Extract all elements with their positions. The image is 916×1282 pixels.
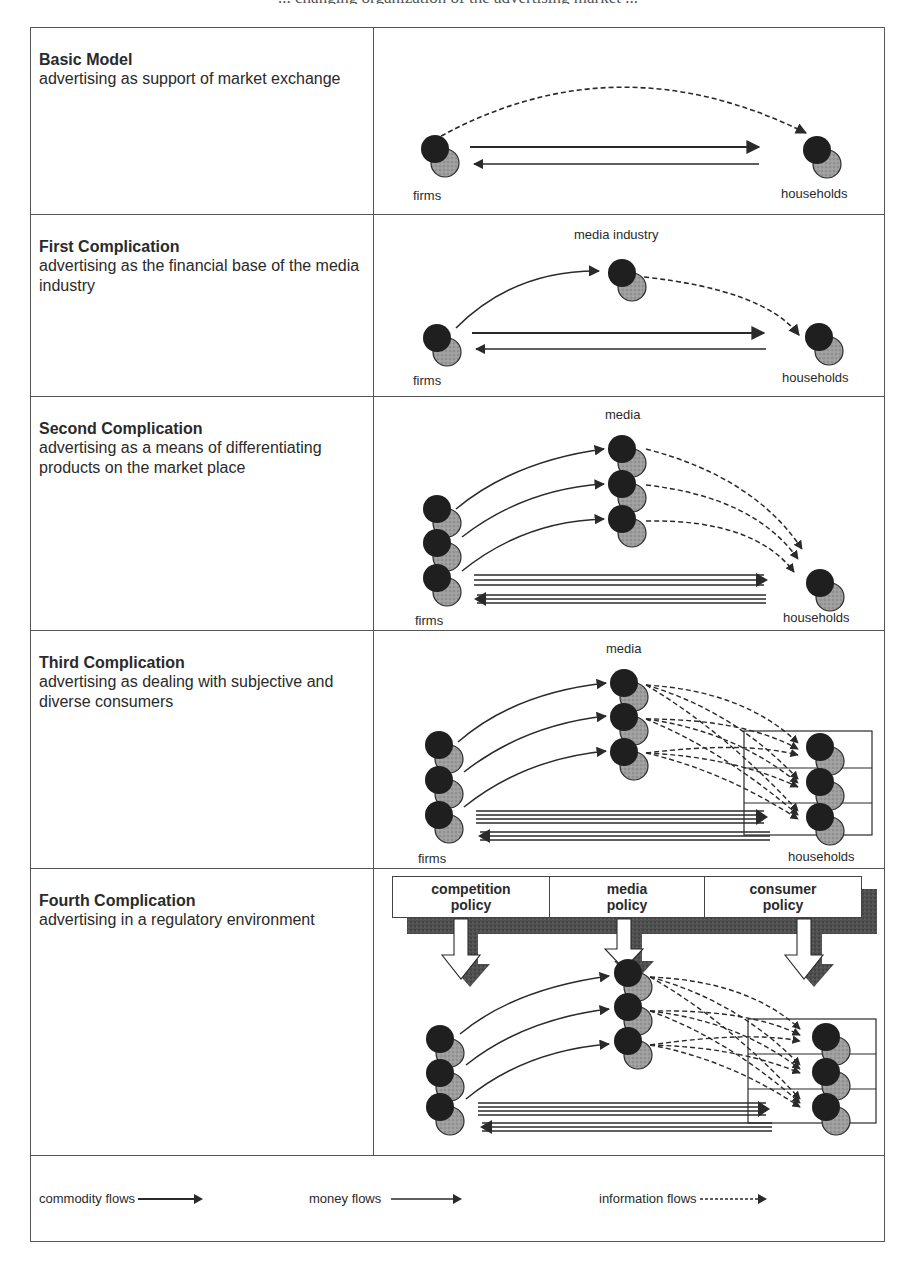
firm-node-3: [426, 1093, 464, 1135]
media-node-1: [608, 435, 646, 477]
row-description: advertising as support of market exchang…: [39, 69, 365, 89]
basic-model-diagram: firms households: [374, 28, 884, 214]
row-title: Third Complication: [39, 653, 365, 672]
label-households: households: [788, 849, 855, 864]
row-title: Basic Model: [39, 50, 365, 69]
media-node: [608, 259, 646, 301]
household-node-3: [806, 803, 844, 845]
row-text: First Complication advertising as the fi…: [31, 215, 374, 396]
row-second-complication: Second Complication advertising as a mea…: [31, 397, 884, 631]
households-node: [806, 569, 844, 611]
row-text: Fourth Complication advertising in a reg…: [31, 869, 374, 1155]
legend-money: money flows: [309, 1191, 599, 1206]
label-firms: firms: [418, 851, 446, 866]
firms-node: [423, 324, 461, 366]
label-households: households: [782, 370, 849, 385]
row-basic-model: Basic Model advertising as support of ma…: [31, 28, 884, 215]
households-node: [803, 136, 841, 178]
label-firms: firms: [413, 373, 441, 388]
household-node-3: [812, 1093, 850, 1135]
row-first-complication: First Complication advertising as the fi…: [31, 215, 884, 397]
households-node: [805, 323, 843, 365]
competition-policy-box: competition policy: [392, 876, 550, 918]
row-description: advertising as a means of differentiatin…: [39, 438, 365, 478]
row-description: advertising in a regulatory environment: [39, 910, 365, 930]
row-text: Basic Model advertising as support of ma…: [31, 28, 374, 214]
second-complication-diagram: media firms households: [374, 397, 884, 630]
household-node-1: [806, 733, 844, 775]
cropped-caption: ... changing organization of the adverti…: [0, 0, 916, 4]
legend-commodity: commodity flows: [39, 1191, 309, 1206]
label-media-industry: media industry: [574, 227, 659, 242]
media-node-2: [608, 470, 646, 512]
household-node-2: [806, 768, 844, 810]
label-firms: firms: [413, 188, 441, 203]
label-firms: firms: [415, 613, 443, 628]
row-third-complication: Third Complication advertising as dealin…: [31, 631, 884, 869]
media-node-3: [610, 738, 648, 780]
label-media: media: [605, 407, 640, 422]
third-complication-diagram: media firms households: [374, 631, 884, 868]
firm-node-1: [425, 731, 463, 773]
label-media: media: [606, 641, 641, 656]
first-complication-diagram: media industry firms households: [374, 215, 884, 396]
advertising-model-table: Basic Model advertising as support of ma…: [30, 27, 885, 1242]
firm-node-3: [423, 564, 461, 606]
dashed-arrow-icon: [700, 1193, 768, 1205]
consumer-policy-box: consumer policy: [704, 876, 862, 918]
household-node-1: [812, 1023, 850, 1065]
label-households: households: [783, 610, 850, 625]
fourth-complication-diagram: competition policy media policy consumer…: [374, 869, 884, 1155]
media-node-2: [610, 703, 648, 745]
firm-node-2: [423, 529, 461, 571]
media-policy-box: media policy: [549, 876, 705, 918]
row-text: Third Complication advertising as dealin…: [31, 631, 374, 868]
solid-arrow-icon: [391, 1193, 463, 1205]
media-node-3: [608, 505, 646, 547]
row-title: Fourth Complication: [39, 891, 365, 910]
row-description: advertising as dealing with subjective a…: [39, 672, 365, 712]
row-text: Second Complication advertising as a mea…: [31, 397, 374, 630]
label-households: households: [781, 186, 848, 201]
row-description: advertising as the financial base of the…: [39, 256, 365, 296]
row-title: Second Complication: [39, 419, 365, 438]
row-title: First Complication: [39, 237, 365, 256]
media-node-3: [614, 1027, 652, 1069]
firm-node-3: [425, 801, 463, 843]
row-fourth-complication: Fourth Complication advertising in a reg…: [31, 869, 884, 1156]
firm-node-2: [425, 766, 463, 808]
household-node-2: [812, 1058, 850, 1100]
legend-information: information flows: [599, 1191, 768, 1206]
legend: commodity flows money flows information …: [31, 1156, 884, 1241]
solid-arrow-icon: [138, 1193, 204, 1205]
firms-node: [421, 135, 459, 177]
